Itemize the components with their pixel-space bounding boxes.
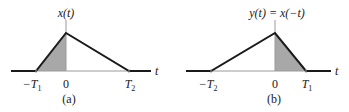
tick-label-t2: T2 (125, 77, 136, 93)
tick-label-neg-t2: −T2 (199, 77, 218, 93)
panel-b: y(t) = x(−t) t −T2 0 T1 (b) (186, 6, 339, 106)
time-reversal-diagram: x(t) t −T1 0 T2 (a) y(t) = x(−t) t −T2 0… (0, 0, 349, 112)
tick-label-zero-b: 0 (272, 77, 278, 91)
signal-x-of-t (11, 33, 151, 71)
tick-label-t1: T1 (302, 77, 313, 93)
tick-label-zero-a: 0 (63, 77, 69, 91)
panel-a-title: x(t) (57, 6, 75, 20)
axis-label-t-a: t (155, 64, 159, 78)
panel-b-caption: (b) (267, 92, 281, 106)
panel-a: x(t) t −T1 0 T2 (a) (11, 6, 159, 106)
panel-b-title: y(t) = x(−t) (248, 6, 305, 20)
axis-label-t-b: t (335, 64, 339, 78)
panel-a-caption: (a) (62, 92, 75, 106)
signal-y-of-t (186, 33, 331, 71)
tick-label-neg-t1: −T1 (23, 77, 42, 93)
